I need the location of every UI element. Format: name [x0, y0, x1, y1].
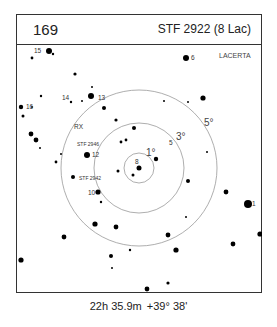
stars [18, 48, 262, 293]
star-label-10: 10 [88, 189, 96, 196]
star-label-stf2942: STF 2942 [79, 175, 101, 181]
chart-header: 169 STF 2922 (8 Lac) [17, 15, 261, 45]
star-label-8: 8 [135, 158, 139, 165]
star-label-15: 15 [34, 47, 42, 54]
circle-label-5: 5° [204, 117, 214, 128]
star-label-stf2946: STF 2946 [77, 141, 99, 147]
star-label-1: 1 [252, 200, 256, 207]
star-map: 1° 3° 5° LACERTA 15 6 14 13 16 RX STF [16, 44, 262, 293]
star-label-6: 6 [191, 54, 195, 61]
dec-value: +39° 38' [147, 300, 187, 312]
chart-coordinates: 22h 35.9m +39° 38' [0, 300, 277, 312]
star-label-16: 16 [26, 103, 34, 110]
chart-number: 169 [33, 21, 58, 38]
circle-label-1: 1° [146, 147, 156, 158]
star-label-14: 14 [62, 94, 70, 101]
star-label-12: 12 [92, 151, 100, 158]
star-label-13: 13 [98, 94, 106, 101]
circle-label-3: 3° [176, 131, 186, 142]
star-label-rx: RX [74, 123, 84, 130]
constellation-label: LACERTA [219, 52, 251, 59]
chart-title: STF 2922 (8 Lac) [158, 22, 251, 36]
ra-value: 22h 35.9m [90, 300, 142, 312]
star-label-5: 5 [169, 139, 173, 146]
